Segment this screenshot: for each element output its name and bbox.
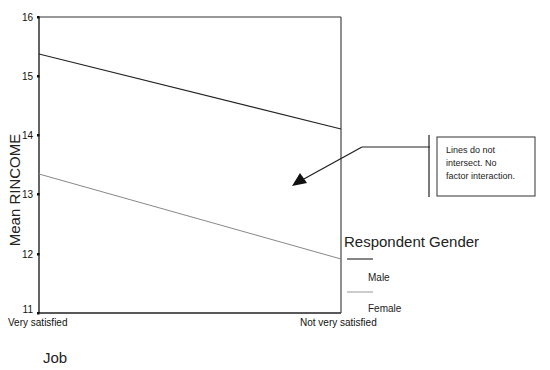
annotation-box: Lines do not intersect. No factor intera… — [437, 137, 535, 196]
y-tick-15: 15 — [22, 71, 34, 82]
annotation-line-2: intersect. No — [446, 158, 497, 168]
x-category-very-satisfied: Very satisfied — [8, 317, 67, 328]
annotation-arrow — [292, 135, 430, 197]
series-line-female — [39, 174, 341, 259]
y-tick-12: 12 — [22, 249, 34, 260]
legend-label-female: Female — [368, 303, 402, 314]
series-line-male — [39, 54, 341, 129]
y-tick-14: 14 — [22, 130, 34, 141]
legend-label-male: Male — [368, 272, 390, 283]
y-tick-16: 16 — [22, 12, 34, 23]
y-tick-13: 13 — [22, 189, 34, 200]
chart-canvas: 16 15 14 13 12 11 Mean RINCOME Very sati… — [0, 0, 550, 370]
annotation-line-3: factor interaction. — [446, 171, 515, 181]
y-tick-11: 11 — [23, 304, 34, 315]
legend-title: Respondent Gender — [344, 233, 479, 250]
annotation-line-1: Lines do not — [446, 145, 496, 155]
plot-frame — [39, 17, 341, 313]
x-category-not-very-satisfied: Not very satisfied — [300, 317, 377, 328]
y-axis: 16 15 14 13 12 11 — [22, 12, 40, 315]
x-axis-label: Job — [43, 349, 67, 366]
y-axis-label: Mean RINCOME — [6, 134, 23, 247]
legend: Respondent Gender Male Female — [344, 233, 479, 314]
